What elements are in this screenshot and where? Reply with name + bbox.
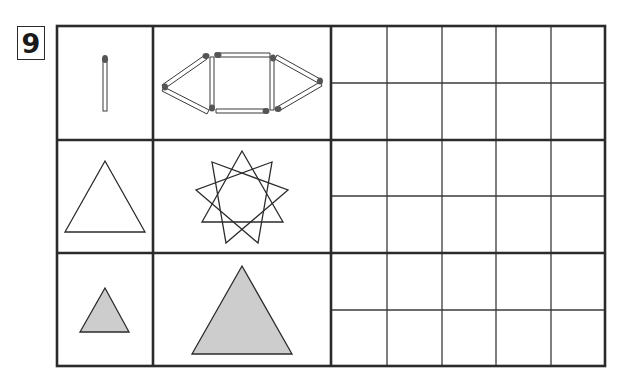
answer-cell[interactable] — [387, 83, 442, 140]
answer-cell[interactable] — [387, 196, 442, 253]
worksheet-table — [0, 0, 625, 383]
matchstick-icon — [102, 55, 108, 111]
answer-cell[interactable] — [551, 27, 605, 83]
answer-cell[interactable] — [496, 140, 551, 196]
answer-cell[interactable] — [496, 83, 551, 140]
answer-cell[interactable] — [442, 253, 496, 310]
answer-cell[interactable] — [551, 310, 605, 366]
answer-cell[interactable] — [551, 83, 605, 140]
small-gray-triangle-figure — [80, 288, 129, 332]
answer-cell[interactable] — [332, 83, 387, 140]
answer-cell[interactable] — [332, 253, 387, 310]
answer-cell[interactable] — [551, 196, 605, 253]
nine-point-star-figure — [196, 151, 288, 243]
answer-cell[interactable] — [387, 140, 442, 196]
answer-cell[interactable] — [332, 140, 387, 196]
answer-cell[interactable] — [442, 140, 496, 196]
answer-cell[interactable] — [442, 83, 496, 140]
answer-cell[interactable] — [442, 310, 496, 366]
answer-cell[interactable] — [387, 310, 442, 366]
answer-cell[interactable] — [332, 310, 387, 366]
answer-cell[interactable] — [442, 27, 496, 83]
answer-cell[interactable] — [387, 253, 442, 310]
answer-cell[interactable] — [332, 196, 387, 253]
answer-cell[interactable] — [496, 310, 551, 366]
answer-cell[interactable] — [442, 196, 496, 253]
outline-triangle-figure — [65, 161, 145, 232]
matchstick-shape-figure — [162, 52, 323, 114]
answer-cell[interactable] — [387, 27, 442, 83]
answer-cell[interactable] — [332, 27, 387, 83]
answer-cell[interactable] — [551, 253, 605, 310]
answer-cell[interactable] — [496, 27, 551, 83]
large-gray-triangle-figure — [192, 266, 292, 354]
answer-cell[interactable] — [496, 253, 551, 310]
answer-cell[interactable] — [496, 196, 551, 253]
answer-cell[interactable] — [551, 140, 605, 196]
